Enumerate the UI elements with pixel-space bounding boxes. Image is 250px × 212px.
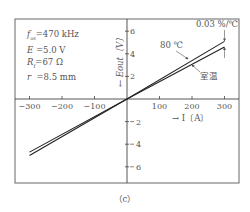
- y-tick-label: 6: [136, 163, 141, 172]
- y-tick-label: 6: [130, 27, 135, 36]
- x-tick-label: −300: [19, 102, 41, 111]
- annotation-coefficient: 0.03 %/℃: [196, 19, 238, 29]
- x-axis-label: → I〔A〕: [172, 113, 209, 123]
- x-tick-label: 200: [184, 102, 199, 111]
- y-axis-label: ← Eout〔V〕: [115, 33, 125, 87]
- param-block: fos=470 kHz E =5.0 V Rf=67 Ω r =8.5 mm: [27, 28, 79, 83]
- y-tick-label: 2: [136, 118, 141, 127]
- param-Rf: Rf=67 Ω: [27, 56, 79, 72]
- param-E: E =5.0 V: [27, 44, 79, 56]
- x-ticks: −300−200−100100200300: [19, 96, 233, 111]
- param-r: r =8.5 mm: [27, 71, 79, 83]
- y-tick-label: 4: [130, 50, 135, 59]
- y-tick-label: 2: [130, 72, 135, 81]
- annotation-80c: 80 ℃: [160, 40, 183, 50]
- x-tick-label: 300: [217, 102, 232, 111]
- y-tick-label: 4: [136, 140, 141, 149]
- annotation-room-temp: 室温: [200, 71, 218, 81]
- figure-caption: （c）: [0, 192, 250, 204]
- param-fos: fos=470 kHz: [27, 28, 79, 44]
- x-tick-label: −100: [84, 102, 106, 111]
- x-tick-label: −200: [51, 102, 73, 111]
- x-tick-label: 100: [152, 102, 167, 111]
